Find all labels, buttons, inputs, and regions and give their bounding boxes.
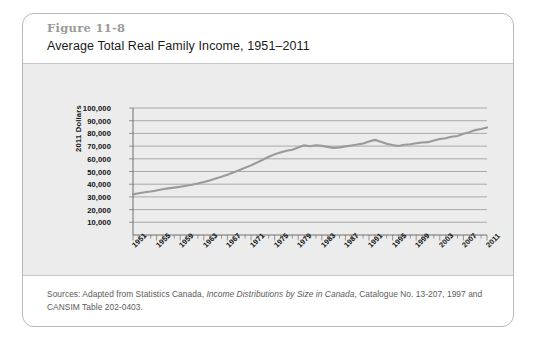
y-axis-tick-label: 100,000 (83, 104, 111, 113)
figure-header: Figure 11-8 Average Total Real Family In… (23, 14, 513, 64)
y-axis-tick-label: 40,000 (87, 180, 111, 189)
y-axis-tick-label: 60,000 (87, 154, 111, 163)
y-axis-tick-label: 70,000 (87, 142, 111, 151)
y-axis-tick-label: 90,000 (87, 116, 111, 125)
y-axis-tick-label: 50,000 (87, 167, 111, 176)
y-axis-tick-label: 20,000 (87, 205, 111, 214)
source-area: Sources: Adapted from Statistics Canada,… (23, 276, 513, 326)
source-italic-title: Income Distributions by Size in Canada (206, 289, 354, 299)
figure-card: Figure 11-8 Average Total Real Family In… (22, 13, 514, 327)
figure-title: Average Total Real Family Income, 1951–2… (47, 39, 310, 53)
source-prefix: Sources: Adapted from Statistics Canada, (47, 289, 206, 299)
figure-number: Figure 11-8 (47, 21, 125, 35)
x-axis-tick-labels: 1951195519591963196719711975197919831987… (111, 64, 489, 144)
y-axis-tick-labels: 10,00020,00030,00040,00050,00060,00070,0… (53, 64, 111, 276)
chart-panel: 2011 Dollars 10,00020,00030,00040,00050,… (23, 64, 513, 276)
y-axis-tick-label: 30,000 (87, 192, 111, 201)
source-note: Sources: Adapted from Statistics Canada,… (47, 288, 487, 313)
y-axis-tick-label: 80,000 (87, 129, 111, 138)
y-axis-tick-label: 10,000 (87, 218, 111, 227)
